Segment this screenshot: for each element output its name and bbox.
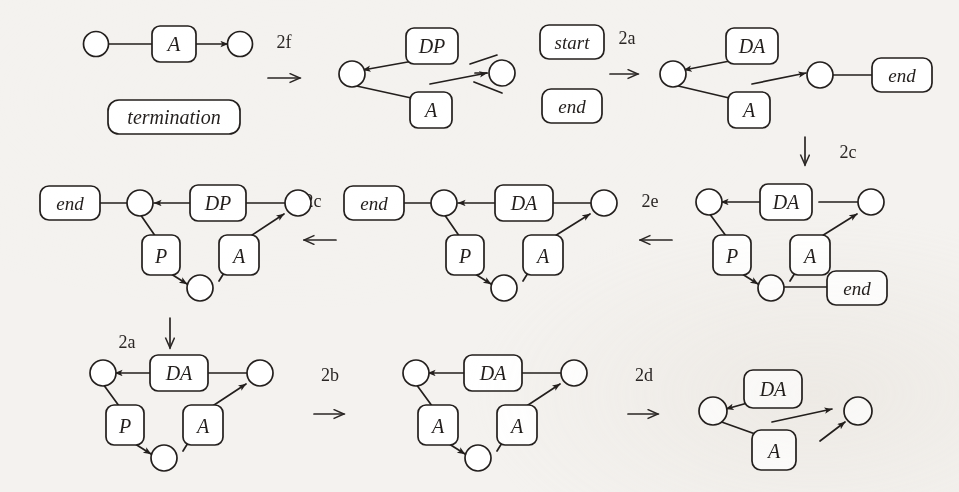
graph-2: DP A start end: [339, 25, 604, 128]
graph-node: [591, 190, 617, 216]
box-label: A: [430, 415, 445, 437]
graph-node: [844, 397, 872, 425]
graph-node: [247, 360, 273, 386]
box-label: P: [154, 245, 167, 267]
box-label: A: [231, 245, 246, 267]
graph-1-termination: A termination: [84, 26, 253, 134]
box-label: DA: [510, 192, 538, 214]
graph-node: [660, 61, 686, 87]
transition-label: 2d: [635, 365, 653, 385]
box-label: A: [509, 415, 524, 437]
box-label: P: [725, 245, 738, 267]
graph-node: [84, 32, 109, 57]
graph-node: [489, 60, 515, 86]
box-label: DA: [479, 362, 507, 384]
graph-8: DA A A: [403, 355, 587, 471]
box-label: P: [458, 245, 471, 267]
transition-2f: 2f: [268, 32, 300, 78]
edge-arrow: [430, 73, 487, 84]
box-label: DA: [738, 35, 766, 57]
termination-label: termination: [127, 106, 220, 128]
box-label: A: [535, 245, 550, 267]
graph-node: [403, 360, 429, 386]
transition-label: 2f: [277, 32, 292, 52]
transition-2e: 2e: [640, 191, 672, 240]
box-label: DA: [165, 362, 193, 384]
graph-node: [228, 32, 253, 57]
edge-arrow: [752, 73, 806, 84]
graph-node: [465, 445, 491, 471]
transition-2d: 2d: [628, 365, 658, 414]
graph-3: DA A end: [660, 28, 932, 128]
box-label: end: [558, 96, 586, 117]
transition-label: 2b: [321, 365, 339, 385]
box-label: A: [166, 32, 181, 56]
graph-node: [807, 62, 833, 88]
graph-node: [696, 189, 722, 215]
graph-9: DA A: [699, 370, 872, 470]
transition-2a-down: 2a: [119, 318, 171, 352]
graph-7: DA P A: [90, 355, 273, 471]
graph-4: DA P A end: [696, 184, 887, 305]
edge-arrow: [772, 409, 832, 422]
graph-node: [90, 360, 116, 386]
transition-label: 2a: [619, 28, 636, 48]
graph-node: [758, 275, 784, 301]
box-label: A: [802, 245, 817, 267]
box-label: DA: [772, 191, 800, 213]
transition-2a-top: 2a: [610, 28, 638, 74]
graph-node: [431, 190, 457, 216]
box-label: end: [360, 193, 388, 214]
box-label: A: [423, 99, 438, 121]
box-label: DP: [204, 192, 232, 214]
box-label: end: [888, 65, 916, 86]
graph-6: end DP P A: [40, 185, 311, 301]
transition-label: 2e: [642, 191, 659, 211]
box-label: A: [195, 415, 210, 437]
graph-node: [151, 445, 177, 471]
graph-node: [561, 360, 587, 386]
graph-node: [187, 275, 213, 301]
graph-node: [699, 397, 727, 425]
box-label: start: [555, 32, 591, 53]
box-label: A: [766, 440, 781, 462]
box-label: end: [56, 193, 84, 214]
graph-node: [339, 61, 365, 87]
box-label: P: [118, 415, 131, 437]
graph-node: [858, 189, 884, 215]
box-label: A: [741, 99, 756, 121]
edge-arrow: [820, 422, 845, 441]
box-label: DA: [759, 378, 787, 400]
transition-2b: 2b: [314, 365, 344, 414]
graph-node: [127, 190, 153, 216]
transition-label: 2a: [119, 332, 136, 352]
graph-node: [491, 275, 517, 301]
derivation-figure: A termination 2f DP A start end: [0, 0, 959, 492]
graph-5: end DA P A: [344, 185, 617, 301]
transition-label: 2c: [840, 142, 857, 162]
box-label: end: [843, 278, 871, 299]
box-label: DP: [418, 35, 446, 57]
transition-2c-down: 2c: [805, 137, 857, 165]
graph-node: [285, 190, 311, 216]
